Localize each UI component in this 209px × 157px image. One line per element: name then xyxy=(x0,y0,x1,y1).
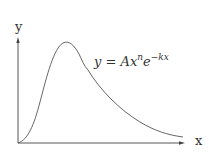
formula-equals: = xyxy=(106,54,117,69)
x-axis-arrow-icon xyxy=(179,141,185,144)
formula-lhs: y xyxy=(94,54,101,69)
formula-exp-base: e xyxy=(143,54,151,69)
x-axis-label: x xyxy=(195,134,202,147)
formula-exponent: −kx xyxy=(151,52,169,62)
chart-plot xyxy=(0,0,209,157)
y-axis-label: y xyxy=(15,20,22,33)
chart-canvas: y x y = Axne−kx xyxy=(0,0,209,157)
y-axis-arrow-icon xyxy=(16,37,19,43)
formula-coefficient: A xyxy=(121,54,130,69)
formula-annotation: y = Axne−kx xyxy=(94,53,169,68)
